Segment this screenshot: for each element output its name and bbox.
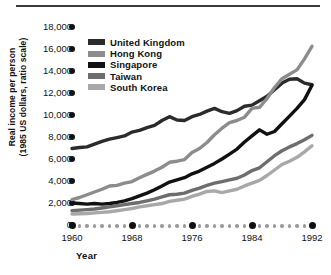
x-axis-tick-label: 1992 [292,232,331,243]
x-axis-title: Year [76,250,97,261]
x-axis-minor-dot [288,224,292,228]
legend-label: United Kingdom [110,37,185,48]
x-axis-minor-dot [145,224,149,228]
x-axis-minor-dot [235,224,239,228]
x-axis-major-dot [309,222,316,229]
legend-item-singapore: Singapore [88,60,185,71]
x-axis-minor-dot [115,224,119,228]
legend-swatch-icon [88,39,105,45]
x-axis-tick-label: 1968 [112,232,152,243]
x-axis-major-dot [69,222,76,229]
x-axis-minor-dot [175,224,179,228]
legend-item-hong-kong: Hong Kong [88,48,185,59]
x-axis-minor-dot [198,224,202,228]
x-axis-minor-dot [273,224,277,228]
x-axis-tick-label: 1976 [172,232,212,243]
chart-legend: United Kingdom Hong Kong Singapore Taiwa… [88,37,185,93]
x-axis-minor-dot [265,224,269,228]
x-axis-minor-dot [243,224,247,228]
legend-item-south-korea: South Korea [88,82,185,93]
x-axis-tick-label: 1960 [52,232,92,243]
legend-item-united-kingdom: United Kingdom [88,37,185,48]
x-axis-minor-dot [213,224,217,228]
x-axis-minor-dot [153,224,157,228]
legend-label: Taiwan [110,71,142,82]
legend-label: Hong Kong [110,48,162,59]
x-axis-minor-dot [183,224,187,228]
x-axis-minor-dot [78,224,82,228]
legend-swatch-icon [88,51,105,57]
x-axis-minor-dot [123,224,127,228]
legend-label: South Korea [110,82,168,93]
x-axis-minor-dot [138,224,142,228]
legend-swatch-icon [88,84,105,90]
x-axis-major-dot [189,222,196,229]
chart-figure: Real income per person (1985 US dollars,… [0,0,331,275]
legend-item-taiwan: Taiwan [88,71,185,82]
x-axis-minor-dot [168,224,172,228]
x-axis-minor-dot [228,224,232,228]
x-axis-minor-dot [280,224,284,228]
x-axis-minor-dot [258,224,262,228]
x-axis-minor-dot [108,224,112,228]
x-axis-minor-dot [205,224,209,228]
x-axis-minor-dot [160,224,164,228]
legend-swatch-icon [88,73,105,79]
x-axis-minor-dot [220,224,224,228]
x-axis-minor-dot [303,224,307,228]
legend-swatch-icon [88,62,105,68]
x-axis-tick-label: 1984 [232,232,272,243]
x-axis-major-dot [129,222,136,229]
legend-label: Singapore [110,59,157,70]
x-axis-major-dot [249,222,256,229]
x-axis-minor-dot [93,224,97,228]
x-axis-minor-dot [295,224,299,228]
x-axis-minor-dot [85,224,89,228]
x-axis-minor-dot [100,224,104,228]
